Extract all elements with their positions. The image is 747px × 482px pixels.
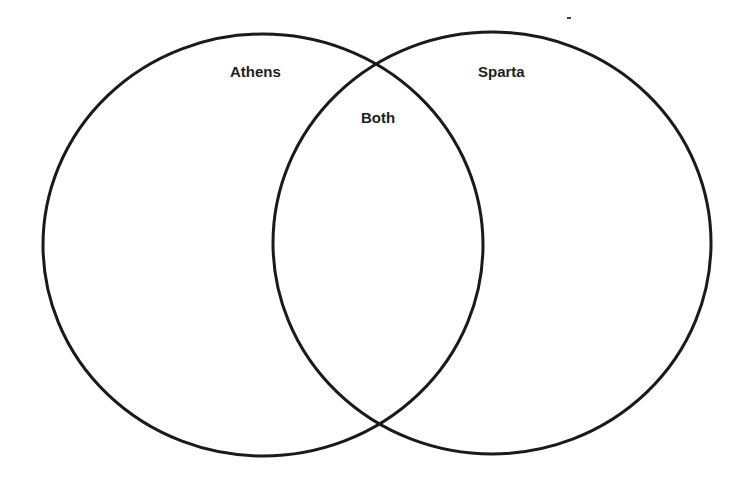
sparta-circle [273, 32, 711, 454]
scan-artifact-mark [567, 17, 571, 19]
venn-diagram [0, 0, 747, 482]
athens-circle [43, 34, 483, 456]
intersection-label: Both [361, 110, 395, 125]
athens-label: Athens [230, 64, 281, 79]
sparta-label: Sparta [478, 64, 525, 79]
